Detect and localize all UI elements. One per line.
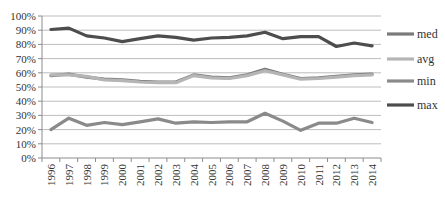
x-tick-label: 2013 <box>348 164 360 187</box>
legend: medavgminmax <box>387 27 438 112</box>
x-tick-label: 2009 <box>277 164 289 187</box>
x-tick-label: 2002 <box>152 164 164 186</box>
x-tick-label: 1998 <box>81 164 93 187</box>
legend-item-min: min <box>387 74 436 88</box>
x-tick-label: 1999 <box>98 164 110 187</box>
y-tick-label: 90% <box>16 24 36 36</box>
x-tick-label: 2012 <box>330 164 342 186</box>
x-tick-label: 1996 <box>45 164 57 187</box>
legend-label: avg <box>417 52 434 66</box>
x-tick-label: 2008 <box>259 164 271 187</box>
legend-item-avg: avg <box>387 52 434 66</box>
x-tick-label: 2014 <box>366 164 378 187</box>
line-chart: 0%10%20%30%40%50%60%70%80%90%100% 199619… <box>0 0 445 198</box>
series-line-max <box>51 28 372 46</box>
legend-label: med <box>417 27 438 41</box>
legend-label: min <box>417 74 436 88</box>
y-tick-label: 30% <box>16 109 36 121</box>
y-tick-label: 80% <box>16 38 36 50</box>
legend-item-max: max <box>387 98 438 112</box>
y-tick-label: 50% <box>16 81 36 93</box>
y-axis-tick-labels: 0%10%20%30%40%50%60%70%80%90%100% <box>10 10 36 164</box>
legend-label: max <box>417 98 438 112</box>
x-axis-tick-labels: 1996199719981999200020012002200320042005… <box>45 164 378 187</box>
x-tick-label: 2000 <box>116 164 128 187</box>
y-tick-label: 20% <box>16 124 36 136</box>
x-tick-label: 2001 <box>134 164 146 186</box>
x-tick-label: 2006 <box>223 164 235 187</box>
x-tick-label: 2011 <box>313 164 325 186</box>
y-tick-label: 70% <box>16 53 36 65</box>
y-tick-label: 100% <box>10 10 36 22</box>
legend-item-med: med <box>387 27 438 41</box>
x-tick-label: 2010 <box>295 164 307 187</box>
x-tick-label: 1997 <box>63 164 75 187</box>
x-tick-label: 2003 <box>170 164 182 187</box>
chart-canvas: 0%10%20%30%40%50%60%70%80%90%100% 199619… <box>0 0 445 198</box>
x-tick-label: 2005 <box>206 164 218 187</box>
y-tick-label: 60% <box>16 67 36 79</box>
y-tick-label: 10% <box>16 138 36 150</box>
x-tick-label: 2004 <box>188 164 200 187</box>
y-tick-label: 0% <box>21 152 36 164</box>
x-tick-label: 2007 <box>241 164 253 187</box>
y-tick-label: 40% <box>16 95 36 107</box>
